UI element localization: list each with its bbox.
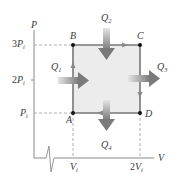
- q2-label: Q2: [101, 13, 111, 25]
- p-axis-label: P: [31, 20, 37, 30]
- tick-label-vi: Vi: [70, 162, 78, 174]
- point-label-a: A: [66, 115, 72, 125]
- pv-diagram: P V 3Pi 2Pi Pi Vi 2Vi A B C D Q1 Q2 Q3 Q…: [0, 0, 176, 186]
- point-c: [138, 43, 142, 47]
- point-label-d: D: [145, 109, 152, 119]
- point-b: [71, 43, 75, 47]
- tick-label-pi: Pi: [20, 108, 28, 120]
- v-axis-label: V: [158, 153, 164, 163]
- tick-label-2pi: 2Pi: [12, 75, 25, 87]
- q3-label: Q3: [157, 62, 167, 74]
- diagram-graphics: [0, 0, 176, 186]
- point-d: [138, 111, 142, 115]
- point-label-c: C: [137, 31, 144, 41]
- tick-label-2vi: 2Vi: [130, 162, 143, 174]
- tick-label-3pi: 3Pi: [12, 39, 25, 51]
- q1-label: Q1: [51, 62, 61, 74]
- q4-label: Q4: [101, 140, 111, 152]
- point-label-b: B: [70, 31, 76, 41]
